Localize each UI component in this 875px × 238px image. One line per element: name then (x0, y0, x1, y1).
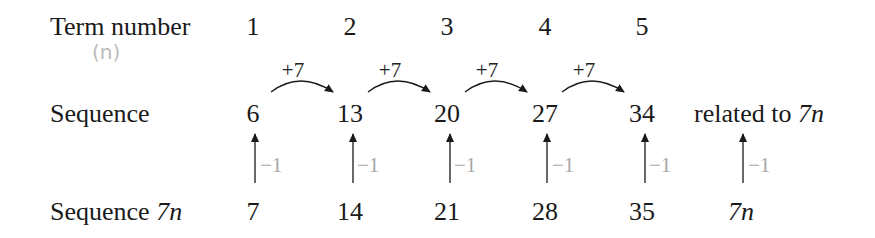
curved-arrow-icon-1 (271, 81, 333, 92)
curved-arrow-icon-2 (368, 81, 430, 92)
curved-arrow-icon-3 (465, 81, 527, 92)
arrows-layer (0, 0, 875, 238)
curved-arrow-icon-4 (562, 81, 624, 92)
